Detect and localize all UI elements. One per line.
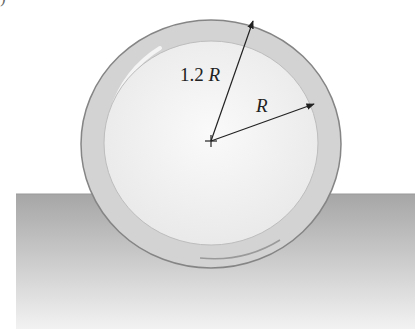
shell-diagram: [0, 0, 415, 329]
inner-radius-label: R: [256, 95, 268, 117]
diagram-canvas: ): [0, 0, 415, 329]
outer-radius-label: 1.2 R: [180, 64, 220, 86]
